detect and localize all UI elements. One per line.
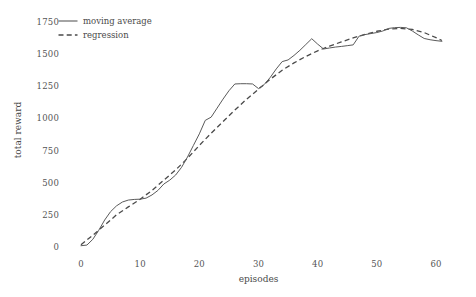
x-axis-label: episodes (239, 274, 279, 284)
legend-label-regression: regression (83, 30, 129, 40)
legend-swatch-dashed-icon (58, 31, 78, 39)
y-axis-label: total reward (13, 90, 23, 170)
chart-figure: 02505007501000125015001750 0102030405060… (0, 0, 476, 297)
plot-background (0, 0, 476, 297)
x-tick-label: 30 (253, 259, 264, 269)
y-tick-label: 500 (0, 178, 65, 188)
x-tick-label: 60 (430, 259, 441, 269)
y-tick-label: 0 (0, 242, 65, 252)
plot-canvas (0, 0, 476, 297)
y-tick-label: 1000 (0, 113, 65, 123)
x-tick-label: 50 (371, 259, 382, 269)
y-tick-label: 250 (0, 210, 65, 220)
x-tick-label: 40 (312, 259, 323, 269)
x-tick-label: 10 (135, 259, 146, 269)
x-tick-label: 20 (194, 259, 205, 269)
y-tick-label: 1750 (0, 17, 65, 27)
chart-legend: moving average regression (58, 16, 152, 40)
y-tick-label: 1250 (0, 81, 65, 91)
legend-label-moving-average: moving average (83, 16, 152, 26)
legend-swatch-solid-icon (58, 17, 78, 25)
legend-item-regression: regression (58, 30, 152, 40)
x-tick-label: 0 (78, 259, 84, 269)
y-tick-label: 1500 (0, 49, 65, 59)
y-tick-label: 750 (0, 146, 65, 156)
legend-item-moving-average: moving average (58, 16, 152, 26)
